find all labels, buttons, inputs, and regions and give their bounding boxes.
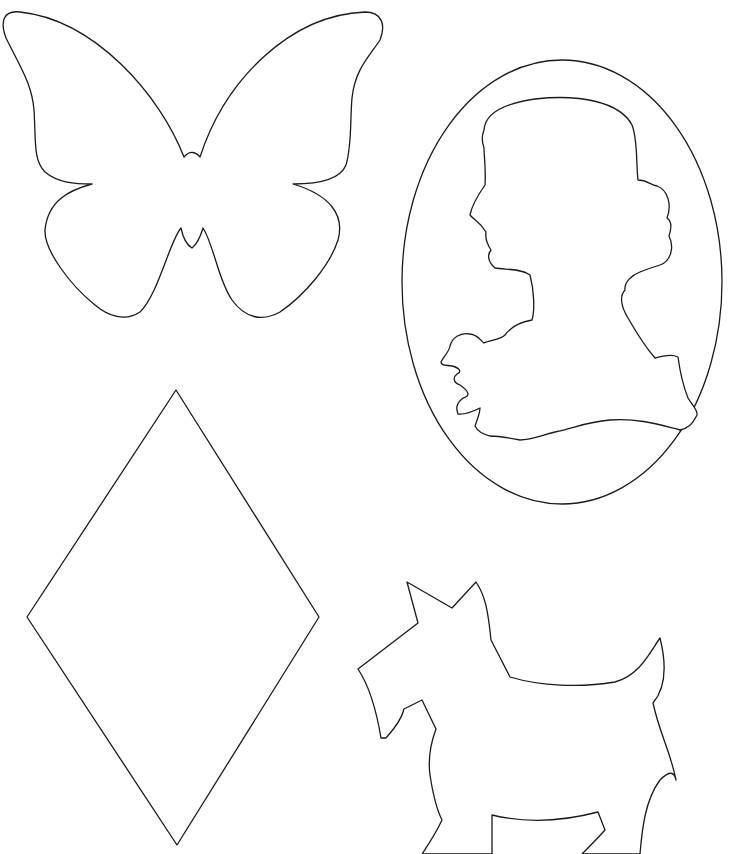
cameo-shape: Cameo oval with woman's profile silhouet… bbox=[402, 60, 722, 504]
template-canvas: Butterfly outline Cameo oval with woman'… bbox=[0, 0, 749, 854]
scottie-dog-shape: Scottie dog outline (cropped at bottom) bbox=[358, 582, 676, 854]
butterfly-shape: Butterfly outline bbox=[3, 12, 382, 318]
diamond-shape: Diamond (rhombus) outline bbox=[27, 390, 319, 845]
